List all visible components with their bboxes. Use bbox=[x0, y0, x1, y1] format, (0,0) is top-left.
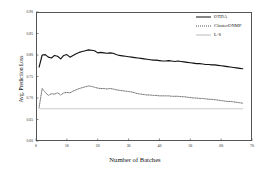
legend-item[interactable]: OTDA bbox=[196, 12, 258, 21]
y-axis-tick-label: 0.70 bbox=[27, 96, 34, 100]
y-axis-tick-label: 0.60 bbox=[27, 139, 34, 143]
x-axis-tick-label: 10 bbox=[65, 144, 69, 148]
legend-swatch-icon bbox=[196, 14, 211, 20]
x-axis-tick-label: 0 bbox=[35, 144, 37, 148]
x-axis-tick-label: 40 bbox=[158, 144, 162, 148]
legend-item-label: OTDA bbox=[214, 14, 227, 19]
x-axis-tick-label: 70 bbox=[250, 144, 254, 148]
x-axis-label: Number of Batches bbox=[0, 156, 270, 163]
x-axis-tick-label: 20 bbox=[96, 144, 100, 148]
legend-item[interactable]: L-S bbox=[196, 30, 258, 39]
legend-swatch-icon bbox=[196, 23, 211, 29]
x-axis-tick-label: 60 bbox=[219, 144, 223, 148]
chart-container: 0.600.650.700.750.800.850.90 01020304050… bbox=[0, 0, 270, 173]
y-axis-label: Avg. Prediction Loss bbox=[18, 24, 24, 134]
y-axis-tick-label: 0.90 bbox=[27, 10, 34, 14]
x-axis-tick-labels: 010203040506070 bbox=[0, 144, 270, 154]
legend-item-label: L-S bbox=[214, 32, 221, 37]
y-axis-tick-label: 0.80 bbox=[27, 53, 34, 57]
legend-swatch-icon bbox=[196, 32, 211, 38]
y-axis-tick-label: 0.85 bbox=[27, 32, 34, 36]
y-axis-tick-label: 0.65 bbox=[27, 118, 34, 122]
legend-item-label: ClusterONMF bbox=[214, 23, 242, 28]
x-axis-tick-label: 50 bbox=[188, 144, 192, 148]
x-axis-tick-label: 30 bbox=[127, 144, 131, 148]
y-axis-tick-label: 0.75 bbox=[27, 75, 34, 79]
chart-legend: OTDAClusterONMFL-S bbox=[196, 12, 258, 39]
legend-item[interactable]: ClusterONMF bbox=[196, 21, 258, 30]
